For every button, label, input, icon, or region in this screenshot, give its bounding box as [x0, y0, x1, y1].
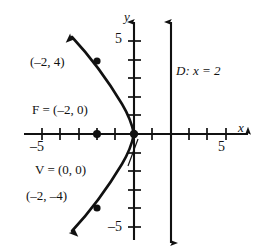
- y-tick-label-5: 5: [115, 32, 122, 46]
- point-marker-vertex: [130, 130, 138, 138]
- parabola-figure: y x 5 –5 –5 5 (–2, 4) F = (–2, 0) V = (0…: [0, 0, 260, 252]
- y-axis-label: y: [124, 10, 130, 23]
- upper-point-label: (–2, 4): [30, 55, 65, 68]
- vertex-label: V = (0, 0): [35, 163, 86, 176]
- point-marker-lower: [93, 204, 100, 211]
- point-marker-focus: [93, 130, 101, 138]
- focus-label: F = (–2, 0): [32, 103, 88, 116]
- x-tick-label-minus5: –5: [30, 140, 44, 154]
- y-tick-label-minus5: –5: [108, 220, 122, 234]
- plot-canvas: [0, 0, 260, 252]
- point-marker-upper: [93, 57, 100, 64]
- lower-point-label: (–2, –4): [26, 189, 67, 202]
- x-axis-label: x: [238, 121, 244, 134]
- directrix-label: D: x = 2: [176, 64, 221, 77]
- x-tick-label-5: 5: [218, 140, 225, 154]
